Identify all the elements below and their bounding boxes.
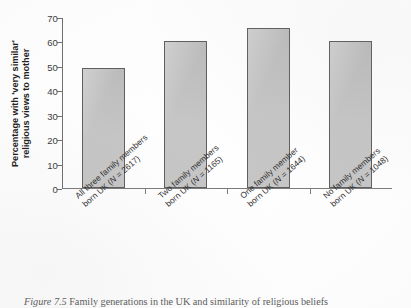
- y-axis-tick-label: 0: [53, 184, 58, 195]
- y-axis-title-line-1: Percentage with 'very similar': [10, 40, 20, 167]
- x-axis-tick-mark: [227, 189, 228, 194]
- figure-container: Percentage with 'very similar' religious…: [0, 0, 411, 308]
- figure-caption-text: Family generations in the UK and similar…: [69, 296, 328, 307]
- x-axis-tick-mark: [310, 189, 311, 194]
- y-axis-tick-label: 50: [47, 61, 58, 72]
- x-axis-tick-mark: [145, 189, 146, 194]
- y-axis-tick-label: 70: [47, 13, 58, 24]
- y-axis-tick-label: 60: [47, 37, 58, 48]
- y-axis-tick-label: 20: [47, 135, 58, 146]
- y-axis-tick-label: 10: [47, 159, 58, 170]
- y-axis-tick-label: 30: [47, 110, 58, 121]
- y-axis-title-line-2: religious views to mother: [21, 49, 31, 159]
- figure-caption-number: Figure 7.5: [24, 296, 67, 307]
- y-axis-tick-label: 40: [47, 86, 58, 97]
- y-axis-title: Percentage with 'very similar' religious…: [6, 18, 34, 189]
- figure-caption: Figure 7.5 Family generations in the UK …: [24, 296, 396, 308]
- y-axis-line: [62, 18, 63, 189]
